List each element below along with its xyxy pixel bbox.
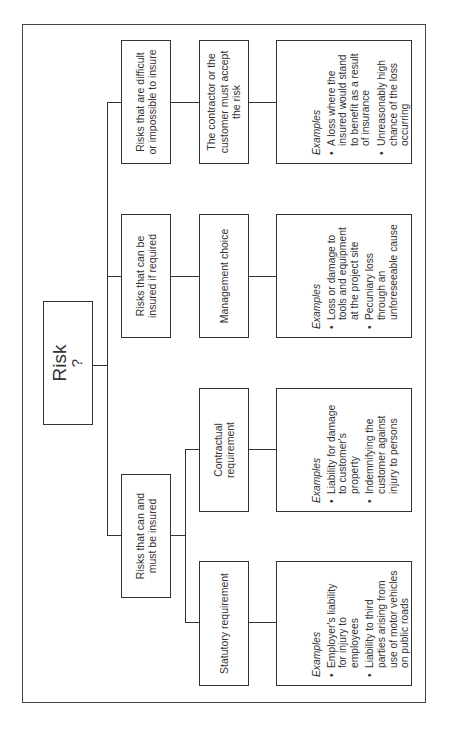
sub-trunk [185, 449, 186, 623]
accept-risk-box: The contractor or the customer must acce… [199, 40, 249, 164]
connector-branch-2 [107, 276, 121, 277]
statutory-requirement-box: Statutory requirement [199, 561, 249, 686]
connector-branch-3 [107, 535, 121, 536]
examples-title: Examples [311, 223, 323, 329]
example-item: Loss or damage to tools and equipment at… [326, 223, 361, 329]
main-trunk [107, 102, 108, 536]
branch-must-be-insured: Risks that can and must be insured [121, 474, 171, 598]
branch-label: Risks that are difficult or impossible t… [134, 47, 159, 157]
node-label: The contractor or the customer must acce… [205, 47, 243, 157]
root-connector [93, 365, 107, 366]
examples-title: Examples [311, 397, 323, 503]
connector [171, 276, 199, 277]
connector [249, 622, 276, 623]
branch-label: Risks that can be insured if required [134, 221, 159, 331]
management-choice-box: Management choice [199, 214, 249, 338]
node-label: Statutory requirement [218, 573, 231, 674]
examples-title: Examples [311, 49, 323, 155]
example-item: A loss where the insured would stand to … [326, 49, 372, 155]
examples-box: Examples Employer's liability for injury… [276, 561, 412, 686]
connector [185, 449, 199, 450]
contractual-requirement-box: Contractual requirement [199, 388, 249, 512]
branch-difficult-to-insure: Risks that are difficult or impossible t… [121, 40, 171, 164]
example-item: Liability to third parties arising from … [364, 570, 410, 677]
root-risk-box: Risk ? [43, 301, 93, 425]
risk-insurance-diagram: Risk ? Risks that are difficult or impos… [0, 0, 460, 731]
connector [185, 622, 199, 623]
connector [171, 102, 199, 103]
branch-insured-if-required: Risks that can be insured if required [121, 214, 171, 338]
examples-box: Examples Liability for damage to custome… [276, 388, 412, 512]
branch-label: Risks that can and must be insured [134, 481, 159, 591]
connector [249, 276, 276, 277]
node-label: Contractual requirement [212, 395, 237, 505]
example-item: Indemnifying the customer against injury… [364, 397, 399, 503]
example-item: Unreasonably high chance of the loss occ… [376, 49, 411, 155]
connector [249, 449, 276, 450]
example-item: Pecuniary loss through an unforeseeable … [364, 223, 399, 329]
examples-box: Examples A loss where the insured would … [276, 40, 412, 164]
root-question-mark: ? [68, 359, 85, 367]
connector [249, 102, 276, 103]
examples-title: Examples [311, 570, 323, 677]
example-item: Liability for damage to customer's prope… [326, 397, 361, 503]
connector [171, 535, 185, 536]
example-item: Employer's liability for injury to emplo… [326, 570, 361, 677]
examples-box: Examples Loss or damage to tools and equ… [276, 214, 412, 338]
connector-branch-1 [107, 102, 121, 103]
root-label: Risk [51, 345, 68, 382]
node-label: Management choice [218, 229, 231, 324]
